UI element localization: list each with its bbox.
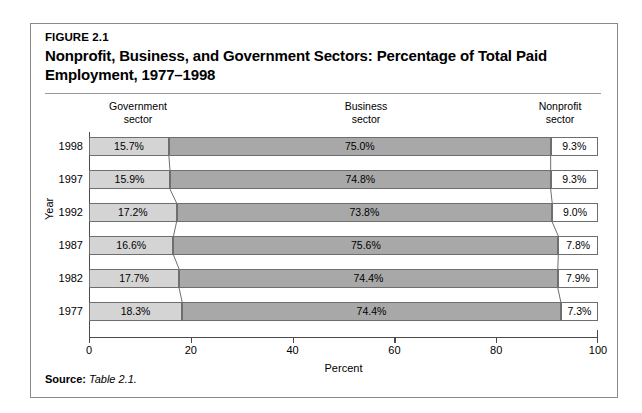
year-label: 1998 [37, 137, 83, 156]
bar-row: 197718.3%74.4%7.3% [89, 302, 598, 321]
bar-segment-nonprofit: 7.3% [561, 302, 598, 321]
x-axis-title: Percent [89, 362, 598, 374]
x-axis-tick [89, 337, 90, 343]
x-axis-tick [394, 337, 395, 343]
bar-segment-government: 15.9% [89, 170, 170, 189]
bar-segment-government: 16.6% [89, 236, 173, 255]
column-header-business: Business sector [321, 100, 411, 125]
bar-segment-government: 15.7% [89, 137, 169, 156]
bar-segment-business: 75.0% [169, 137, 551, 156]
x-axis-line [89, 337, 598, 338]
bar-segment-government: 17.2% [89, 203, 177, 222]
year-label: 1992 [37, 203, 83, 222]
figure-title: Nonprofit, Business, and Government Sect… [45, 46, 597, 84]
x-axis-tick [597, 337, 598, 343]
x-axis-tick-label: 60 [374, 344, 414, 356]
bar-row: 199715.9%74.8%9.3% [89, 170, 598, 189]
x-axis-tick-label: 0 [69, 344, 109, 356]
bar-row: 198217.7%74.4%7.9% [89, 269, 598, 288]
source-value: Table 2.1. [89, 373, 137, 385]
column-header-business-line1: Business [345, 100, 388, 112]
x-axis-tick-label: 20 [171, 344, 211, 356]
bar-segment-government: 18.3% [89, 302, 182, 321]
plot-area: Year 199815.7%75.0%9.3%199715.9%74.8%9.3… [89, 132, 598, 337]
bar-segment-government: 17.7% [89, 269, 179, 288]
bar-segment-nonprofit: 9.3% [551, 137, 598, 156]
figure-number: FIGURE 2.1 [45, 31, 109, 43]
bar-segment-nonprofit: 7.9% [558, 269, 598, 288]
x-axis-tick [293, 337, 294, 343]
x-axis-tick [496, 337, 497, 343]
bar-segment-business: 74.4% [182, 302, 561, 321]
x-axis-tick-label: 100 [578, 344, 618, 356]
x-axis-tick-label: 80 [476, 344, 516, 356]
title-divider [45, 93, 601, 94]
bar-segment-business: 74.8% [170, 170, 551, 189]
figure-frame: FIGURE 2.1 Nonprofit, Business, and Gove… [30, 23, 618, 398]
year-label: 1987 [37, 236, 83, 255]
source-note: Source:Table 2.1. [45, 373, 137, 385]
column-header-government-line1: Government [109, 100, 167, 112]
year-label: 1997 [37, 170, 83, 189]
year-label: 1982 [37, 269, 83, 288]
bar-segment-nonprofit: 7.8% [558, 236, 598, 255]
column-header-government-line2: sector [93, 113, 183, 126]
column-header-nonprofit: Nonprofit sector [521, 100, 599, 125]
bar-segment-nonprofit: 9.3% [551, 170, 598, 189]
x-axis-tick [191, 337, 192, 343]
bar-row: 199217.2%73.8%9.0% [89, 203, 598, 222]
column-header-business-line2: sector [321, 113, 411, 126]
column-header-government: Government sector [93, 100, 183, 125]
bar-row: 198716.6%75.6%7.8% [89, 236, 598, 255]
bar-segment-nonprofit: 9.0% [552, 203, 598, 222]
column-header-nonprofit-line2: sector [521, 113, 599, 126]
bar-row: 199815.7%75.0%9.3% [89, 137, 598, 156]
bar-segment-business: 74.4% [179, 269, 558, 288]
column-header-nonprofit-line1: Nonprofit [539, 100, 582, 112]
bar-segment-business: 73.8% [177, 203, 553, 222]
source-label: Source: [45, 373, 86, 385]
year-label: 1977 [37, 302, 83, 321]
x-axis-tick-label: 40 [273, 344, 313, 356]
bar-segment-business: 75.6% [173, 236, 558, 255]
